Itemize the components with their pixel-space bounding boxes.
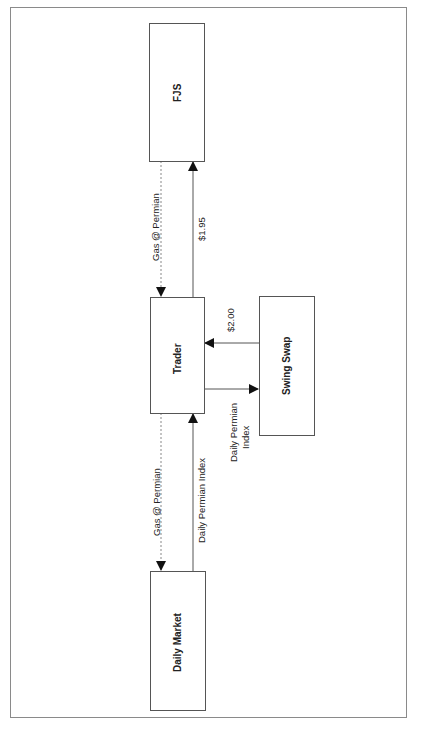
edge-label-market-to-trader: Daily Permian Index: [196, 458, 207, 543]
node-swing-swap: Swing Swap: [259, 296, 315, 436]
node-trader: Trader: [150, 297, 205, 414]
connectors: [0, 0, 432, 735]
node-daily-market-label: Daily Market: [172, 613, 183, 672]
edge-label-swap-to-trader: $2.00: [225, 308, 236, 332]
node-swing-swap-label: Swing Swap: [281, 337, 292, 395]
node-fjs-label: FJS: [172, 84, 183, 102]
edge-label-trader-to-fjs: $1.95: [196, 217, 207, 241]
diagram-canvas: FJS Trader Swing Swap Daily Market Gas @…: [0, 0, 432, 735]
edge-label-trader-to-swap-line2: Index: [240, 426, 251, 449]
edge-label-trader-to-market: Gas @ Permian: [151, 468, 162, 536]
node-trader-label: Trader: [172, 343, 183, 374]
node-daily-market: Daily Market: [150, 571, 206, 711]
edge-label-fjs-to-trader: Gas @ Permian: [150, 193, 161, 261]
edge-label-trader-to-swap-line1: Daily Permian: [228, 403, 239, 462]
node-fjs: FJS: [149, 23, 205, 162]
